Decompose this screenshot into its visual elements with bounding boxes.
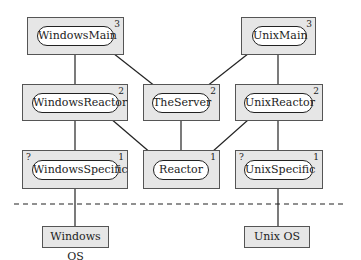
level-number: 3 (114, 19, 120, 29)
module-unixreactor[interactable]: UnixReactor (244, 93, 313, 113)
platform-unix-os[interactable]: Unix OS (244, 226, 310, 248)
level-number: 2 (210, 86, 216, 96)
module-windowsmain[interactable]: WindowsMain (37, 26, 114, 46)
platform-windows-os[interactable]: Windows OS (42, 226, 109, 248)
module-unixspecific[interactable]: UnixSpecific (244, 160, 313, 180)
unknown-marker: ? (26, 152, 31, 162)
module-theserver[interactable]: TheServer (152, 93, 210, 113)
module-unixmain[interactable]: UnixMain (252, 26, 307, 46)
level-number: 1 (313, 152, 319, 162)
module-windowsreactor[interactable]: WindowsReactor (32, 93, 119, 113)
level-number: 2 (118, 86, 124, 96)
module-windowsspecific[interactable]: WindowsSpecific (32, 160, 119, 180)
level-number: 3 (306, 19, 312, 29)
level-number: 1 (210, 152, 216, 162)
module-reactor[interactable]: Reactor (153, 160, 209, 180)
level-number: 1 (118, 152, 124, 162)
unknown-marker: ? (239, 152, 244, 162)
level-number: 2 (313, 86, 319, 96)
